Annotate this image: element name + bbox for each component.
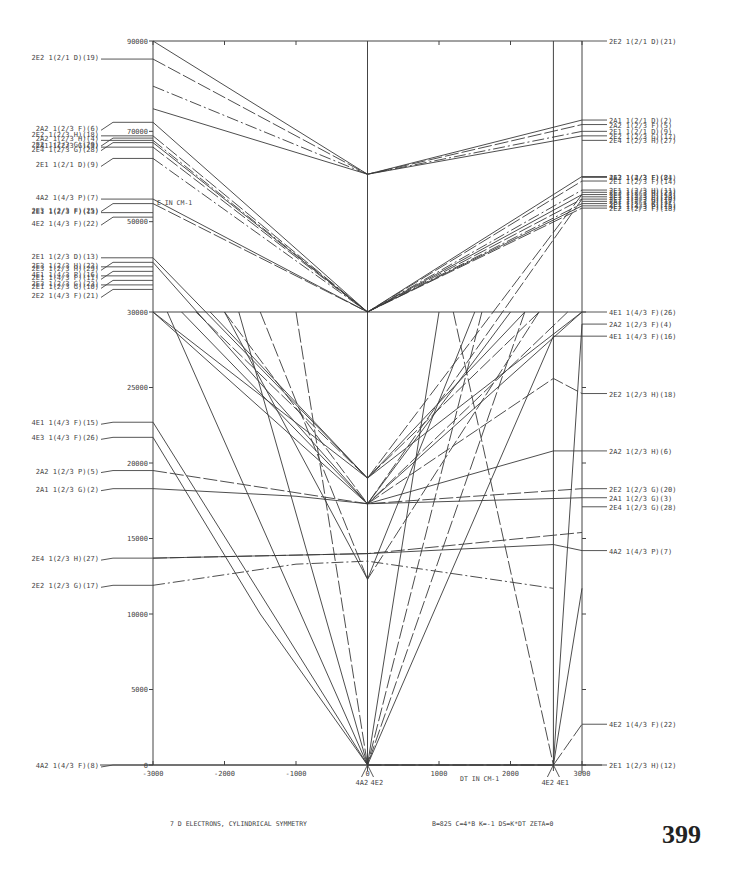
chart-captions: 7 D ELECTRONS, CYLINDRICAL SYMMETRY B=82… — [157, 199, 553, 828]
x-tick-label: 3000 — [574, 770, 591, 778]
energy-curve — [153, 262, 368, 503]
energy-curve — [368, 312, 540, 478]
label-leader — [101, 489, 153, 491]
x-tick-label: 0 — [365, 770, 369, 778]
symmetry-marker-label: 4E2 — [371, 779, 384, 787]
energy-curve — [153, 561, 553, 588]
term-label: 2E1 1(2/3 D)(13) — [32, 253, 99, 261]
symmetry-marker-label: 4E2 — [541, 779, 554, 787]
y-tick-label-upper: 50000 — [127, 218, 148, 226]
term-label: 2E1 1(2/3 H)(12) — [609, 762, 676, 770]
energy-curve — [153, 258, 368, 478]
energy-curve — [553, 324, 582, 765]
term-label: 2E2 1(4/3 F)(21) — [32, 292, 99, 300]
energy-curve — [368, 378, 583, 503]
symmetry-marker-label: 4A2 — [356, 779, 369, 787]
term-label: 4E1 1(4/3 F)(15) — [32, 419, 99, 427]
left-term-labels: 2E2 1(2/1 D)(19)2A2 1(2/3 F)(6)2E2 1(2/3… — [32, 54, 153, 770]
x-tick-label: 2000 — [502, 770, 519, 778]
term-label: 4A2 1(4/3 P)(7) — [36, 194, 99, 202]
y-tick-label: 5000 — [131, 686, 148, 694]
marker-leader — [547, 765, 553, 777]
label-leader — [101, 471, 153, 473]
term-label: 4E1 1(4/3 P)(16) — [32, 271, 99, 279]
label-leader — [101, 558, 153, 560]
label-leader — [101, 280, 153, 288]
chart-title: 7 D ELECTRONS, CYLINDRICAL SYMMETRY — [170, 820, 307, 828]
y-tick-label: 10000 — [127, 611, 148, 619]
energy-curve — [368, 312, 440, 765]
energy-curve — [368, 312, 475, 579]
label-leader — [101, 437, 153, 439]
symmetry-marker-label: 4E1 — [556, 779, 569, 787]
term-label: 2E2 1(2/3 H)(18) — [609, 391, 676, 399]
term-label: 2E1 1(2/3 F)(14) — [609, 178, 676, 186]
term-label: 2E1 1(2/3 F)(13) — [32, 208, 99, 216]
term-label: 2E4 1(2/3 H)(27) — [32, 555, 99, 563]
energy-curve — [225, 312, 368, 504]
term-label: 2A1 1(2/3 G)(3) — [36, 142, 99, 150]
energy-curve — [196, 312, 368, 478]
energy-curve — [553, 588, 582, 765]
energy-curve — [368, 312, 482, 765]
label-leader — [101, 422, 153, 424]
label-leader — [101, 289, 153, 297]
energy-curve — [167, 312, 367, 765]
x-axis-label: DT IN CM-1 — [460, 775, 499, 783]
y-tick-label: 0 — [144, 762, 148, 770]
energy-curve — [153, 437, 368, 765]
x-tick-label: -1000 — [285, 770, 306, 778]
y-tick-label: 15000 — [127, 535, 148, 543]
energy-curve — [210, 312, 367, 478]
term-label: 2E2 1(2/3 G)(20) — [609, 486, 676, 494]
term-label: 4A2 1(4/3 F)(8) — [36, 762, 99, 770]
term-label: 2E2 1(2/1 D)(21) — [609, 38, 676, 46]
page-number: 399 — [662, 820, 701, 850]
y-tick-label-upper: 90000 — [127, 38, 148, 46]
term-label: 2E2 1(2/3 F)(18) — [609, 205, 676, 213]
term-label: 2E1 1(2/1 D)(9) — [36, 161, 99, 169]
energy-curve — [368, 312, 525, 765]
x-tick-label: 1000 — [431, 770, 448, 778]
y-tick-label: 30000 — [127, 309, 148, 317]
term-label: 2A2 1(2/3 H)(6) — [609, 448, 672, 456]
chart-parameters: B=825 C=4*B K=-1 DS=K*DT ZETA=0 — [432, 820, 553, 828]
term-label: 2A1 1(2/3 G)(2) — [36, 486, 99, 494]
term-label: 2E4 1(2/3 G)(28) — [609, 504, 676, 512]
x-tick-label: -2000 — [214, 770, 235, 778]
term-label: 2A2 1(2/3 F)(4) — [609, 321, 672, 329]
term-label: 4E3 1(4/3 F)(26) — [32, 434, 99, 442]
term-label: 2A1 1(2/3 G)(3) — [609, 495, 672, 503]
y-axis-label: E IN CM-1 — [157, 199, 192, 207]
x-tick-label: -3000 — [142, 770, 163, 778]
term-label: 2E3 1(2/3 G)(23) — [32, 280, 99, 288]
label-leader — [101, 143, 153, 151]
energy-curve — [368, 195, 583, 479]
term-label: 4E1 1(4/3 F)(26) — [609, 309, 676, 317]
energy-curve — [453, 312, 553, 765]
energy-curve — [368, 199, 583, 504]
energy-curve — [225, 312, 368, 579]
label-leader — [101, 271, 153, 279]
energy-curve — [296, 312, 368, 765]
y-tick-label-upper: 70000 — [127, 128, 148, 136]
energy-curve — [368, 724, 583, 765]
term-label: 4E2 1(4/3 F)(22) — [609, 721, 676, 729]
y-tick-label: 20000 — [127, 460, 148, 468]
energy-level-diagram: -3000-2000-10000100020003000050001000015… — [0, 0, 746, 873]
y-tick-label: 25000 — [127, 384, 148, 392]
label-leader — [101, 262, 153, 270]
plot-axes: -3000-2000-10000100020003000050001000015… — [100, 38, 602, 788]
term-label: 2E2 1(2/3 G)(17) — [32, 582, 99, 590]
marker-leader — [553, 765, 559, 777]
term-label: 2A2 1(2/3 P)(5) — [36, 468, 99, 476]
label-leader — [101, 158, 153, 166]
term-label: 2E4 1(2/3 H)(27) — [609, 137, 676, 145]
term-label: 2E3 1(2/3 H)(23) — [32, 262, 99, 270]
term-label: 4E2 1(4/3 F)(22) — [32, 220, 99, 228]
energy-curve — [239, 312, 368, 765]
term-label: 4A2 1(4/3 P)(7) — [609, 548, 672, 556]
right-term-labels: 2E2 1(2/1 D)(21)2A1 1(2/1 D)(2)2A2 1(2/3… — [582, 38, 676, 770]
term-label: 2E2 1(2/1 D)(19) — [32, 54, 99, 62]
label-leader — [101, 585, 153, 587]
